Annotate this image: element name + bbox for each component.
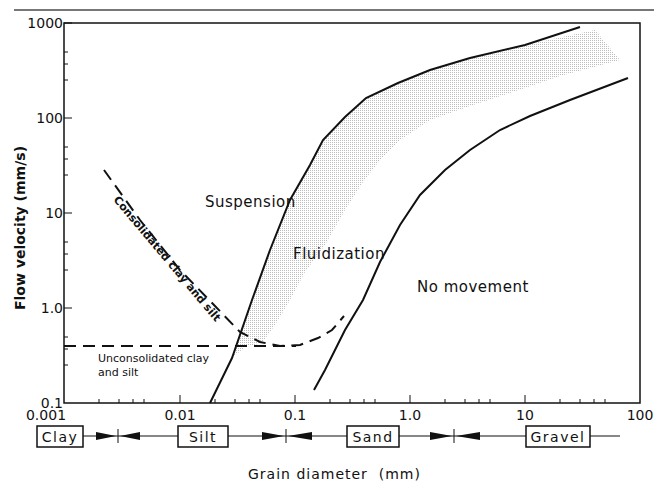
svg-text:100: 100 <box>627 407 654 423</box>
chart-svg: 1000 100 10 1.0 0.1 0.001 0.01 0.1 1.0 1… <box>0 0 667 500</box>
x-axis-label: Grain diameter (mm) <box>248 466 421 482</box>
svg-text:10: 10 <box>45 205 63 221</box>
y-axis-ticks <box>64 23 72 365</box>
y-tick-labels: 1000 100 10 1.0 0.1 <box>27 15 63 411</box>
class-clay: Clay <box>42 429 79 445</box>
svg-text:1.0: 1.0 <box>399 407 421 423</box>
svg-text:1.0: 1.0 <box>41 300 63 316</box>
svg-text:0.01: 0.01 <box>164 407 195 423</box>
class-sand: Sand <box>352 429 393 445</box>
svg-text:100: 100 <box>36 110 63 126</box>
svg-text:10: 10 <box>516 407 534 423</box>
svg-text:1000: 1000 <box>27 15 63 31</box>
svg-text:0.001: 0.001 <box>26 407 66 423</box>
label-fluidization: Fluidization <box>293 245 385 263</box>
label-unconsolidated-1: Unconsolidated clay <box>98 352 209 365</box>
y-axis-label: Flow velocity (mm/s) <box>12 146 28 310</box>
svg-text:0.1: 0.1 <box>284 407 306 423</box>
label-no-movement: No movement <box>417 278 529 296</box>
label-unconsolidated-2: and silt <box>98 366 139 379</box>
label-consolidated: Consolidated clay and silt <box>111 194 223 325</box>
x-tick-labels: 0.001 0.01 0.1 1.0 10 100 <box>26 407 653 423</box>
grain-class-bar: Clay Silt Sand Gravel <box>37 426 620 447</box>
x-axis-ticks <box>99 395 605 403</box>
label-suspension: Suspension <box>205 193 296 211</box>
class-silt: Silt <box>189 429 217 445</box>
class-gravel: Gravel <box>531 429 586 445</box>
